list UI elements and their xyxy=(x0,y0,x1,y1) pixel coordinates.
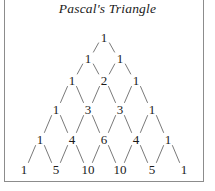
triangle-edge xyxy=(92,86,99,103)
triangle-edge xyxy=(93,64,99,75)
triangle-node-r4-c1: 4 xyxy=(69,133,76,146)
triangle-edge xyxy=(156,115,163,133)
triangle-node-r3-c1: 3 xyxy=(85,103,92,116)
triangle-node-r4-c2: 6 xyxy=(101,133,108,146)
triangle-edge xyxy=(76,115,83,133)
triangle-edge xyxy=(76,145,83,163)
triangle-node-r0-c0: 1 xyxy=(101,31,108,44)
triangle-edge xyxy=(140,115,147,133)
triangle-edge xyxy=(108,145,115,163)
triangle-edge xyxy=(109,64,115,75)
triangle-node-r4-c3: 4 xyxy=(133,133,140,146)
triangle-node-r2-c2: 1 xyxy=(133,74,140,87)
triangle-edge xyxy=(156,145,163,163)
triangle-node-r3-c3: 1 xyxy=(149,103,156,116)
triangle-node-r2-c1: 2 xyxy=(101,74,108,87)
pascals-triangle-figure: Pascal's Triangle 1111211331146411510105… xyxy=(0,0,215,191)
triangle-node-r5-c4: 5 xyxy=(149,163,156,176)
triangle-edge xyxy=(124,86,131,103)
triangle-edge xyxy=(44,115,51,133)
triangle-node-r5-c1: 5 xyxy=(53,163,60,176)
triangle-edge xyxy=(92,115,99,133)
triangle-edge xyxy=(124,115,131,133)
triangle-edge xyxy=(125,64,131,75)
triangle-edge xyxy=(76,86,83,103)
triangle-edge xyxy=(60,86,67,103)
triangle-edge xyxy=(77,64,83,75)
triangle-edge xyxy=(28,145,35,163)
triangle-edge xyxy=(60,115,67,133)
triangle-node-r5-c2: 10 xyxy=(82,163,95,176)
triangle-node-r5-c0: 1 xyxy=(21,163,28,176)
triangle-edge xyxy=(108,86,115,103)
triangle-node-r3-c2: 3 xyxy=(117,103,124,116)
triangle-edge xyxy=(93,43,99,53)
triangle-edge xyxy=(109,43,115,53)
triangle-edge xyxy=(140,86,147,103)
triangle-edge xyxy=(124,145,131,163)
triangle-edge xyxy=(92,145,99,163)
triangle-node-r5-c5: 1 xyxy=(181,163,188,176)
triangle-edge xyxy=(140,145,147,163)
triangle-node-r3-c0: 1 xyxy=(53,103,60,116)
triangle-node-r4-c4: 1 xyxy=(165,133,172,146)
triangle-edge xyxy=(60,145,67,163)
triangle-edge xyxy=(108,115,115,133)
triangle-node-r2-c0: 1 xyxy=(69,74,76,87)
triangle-edge xyxy=(172,145,179,163)
triangle-edge xyxy=(44,145,51,163)
triangle-node-r1-c0: 1 xyxy=(85,52,92,65)
triangle-node-r1-c1: 1 xyxy=(117,52,124,65)
triangle-node-r5-c3: 10 xyxy=(114,163,127,176)
triangle-node-r4-c0: 1 xyxy=(37,133,44,146)
